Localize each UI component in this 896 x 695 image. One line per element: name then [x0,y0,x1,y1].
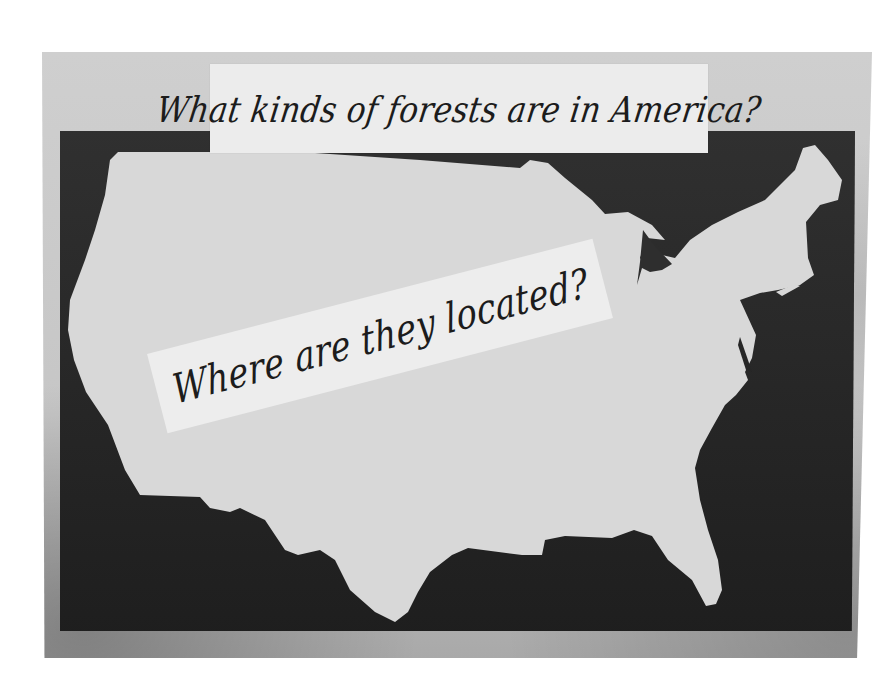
question-card-top: What kinds of forests are in America? [210,64,708,153]
bulletin-board-photo: What kinds of forests are in America? Wh… [0,0,896,695]
question-text-forest-kinds: What kinds of forests are in America? [154,88,764,129]
